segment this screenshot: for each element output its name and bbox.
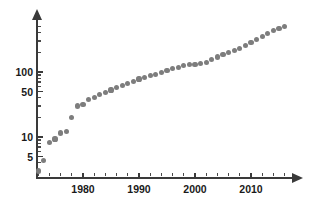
y-axis-arrow-icon xyxy=(32,9,42,20)
y-tick-minor xyxy=(38,139,41,140)
data-point xyxy=(41,158,46,163)
data-point xyxy=(192,62,197,67)
x-tick-minor xyxy=(262,173,263,176)
data-point xyxy=(209,57,214,62)
data-point xyxy=(58,130,63,135)
data-point xyxy=(181,63,186,68)
data-point xyxy=(164,68,169,73)
data-point xyxy=(131,79,136,84)
data-point xyxy=(148,73,153,78)
data-point xyxy=(176,65,181,70)
data-point xyxy=(36,168,41,173)
y-tick-minor xyxy=(38,162,41,163)
y-tick-minor xyxy=(38,40,41,41)
y-tick-major xyxy=(38,71,43,72)
data-point xyxy=(271,28,276,33)
data-point xyxy=(92,95,97,100)
data-point xyxy=(232,48,237,53)
x-tick-label: 1980 xyxy=(63,184,103,195)
y-tick-minor xyxy=(38,32,41,33)
data-point xyxy=(198,61,203,66)
x-tick-minor xyxy=(116,173,117,176)
y-tick-major xyxy=(38,156,43,157)
x-tick-minor xyxy=(273,173,274,176)
data-point xyxy=(276,26,281,31)
x-axis-line xyxy=(36,177,294,179)
x-tick-major xyxy=(250,173,251,178)
data-point xyxy=(108,87,113,92)
data-point xyxy=(125,81,130,86)
x-tick-minor xyxy=(94,173,95,176)
scatter-chart: 51050100 1980199020002010 xyxy=(0,0,312,205)
y-tick-label: 5 xyxy=(1,152,33,162)
x-tick-label: 2000 xyxy=(175,184,215,195)
x-tick-minor xyxy=(71,173,72,176)
data-point xyxy=(159,70,164,75)
data-point xyxy=(86,97,91,102)
y-tick-minor xyxy=(38,52,41,53)
y-tick-minor xyxy=(38,143,41,144)
y-tick-minor xyxy=(38,78,41,79)
data-point xyxy=(114,85,119,90)
y-tick-major xyxy=(38,136,43,137)
x-tick-major xyxy=(82,173,83,178)
y-tick-minor xyxy=(38,151,41,152)
x-tick-major xyxy=(138,173,139,178)
data-point xyxy=(103,90,108,95)
data-point xyxy=(265,31,270,36)
x-tick-minor xyxy=(284,173,285,176)
y-tick-minor xyxy=(38,81,41,82)
y-tick-major xyxy=(38,91,43,92)
data-point xyxy=(142,75,147,80)
data-point xyxy=(120,83,125,88)
y-tick-minor xyxy=(38,86,41,87)
data-point xyxy=(282,24,287,29)
data-point xyxy=(260,34,265,39)
x-tick-minor xyxy=(217,173,218,176)
x-tick-minor xyxy=(228,173,229,176)
x-tick-label: 1990 xyxy=(119,184,159,195)
data-point xyxy=(80,102,85,107)
data-point xyxy=(215,54,220,59)
data-point xyxy=(237,46,242,51)
data-point xyxy=(220,52,225,57)
y-tick-minor xyxy=(38,117,41,118)
data-point xyxy=(170,66,175,71)
x-tick-minor xyxy=(161,173,162,176)
data-point xyxy=(64,129,69,134)
data-point xyxy=(226,50,231,55)
x-tick-minor xyxy=(239,173,240,176)
x-tick-minor xyxy=(49,173,50,176)
data-point xyxy=(248,40,253,45)
data-point xyxy=(47,140,52,145)
y-tick-minor xyxy=(38,74,41,75)
y-tick-label: 100 xyxy=(1,67,33,77)
x-tick-major xyxy=(194,173,195,178)
data-point xyxy=(52,136,57,141)
x-tick-minor xyxy=(60,173,61,176)
x-tick-minor xyxy=(172,173,173,176)
y-tick-minor xyxy=(38,105,41,106)
data-point xyxy=(153,72,158,77)
data-point xyxy=(187,62,192,67)
x-tick-label: 2010 xyxy=(231,184,271,195)
x-axis-arrow-icon xyxy=(292,173,303,183)
data-point xyxy=(75,103,80,108)
data-point xyxy=(254,37,259,42)
x-tick-minor xyxy=(150,173,151,176)
x-tick-minor xyxy=(105,173,106,176)
y-tick-label: 10 xyxy=(1,132,33,142)
y-tick-label: 50 xyxy=(1,87,33,97)
data-point xyxy=(136,76,141,81)
x-tick-minor xyxy=(183,173,184,176)
data-point xyxy=(97,92,102,97)
y-tick-minor xyxy=(38,26,41,27)
data-point xyxy=(243,43,248,48)
x-tick-minor xyxy=(206,173,207,176)
y-tick-minor xyxy=(38,146,41,147)
data-point xyxy=(204,60,209,65)
x-tick-minor xyxy=(127,173,128,176)
y-tick-minor xyxy=(38,97,41,98)
data-point xyxy=(69,115,74,120)
